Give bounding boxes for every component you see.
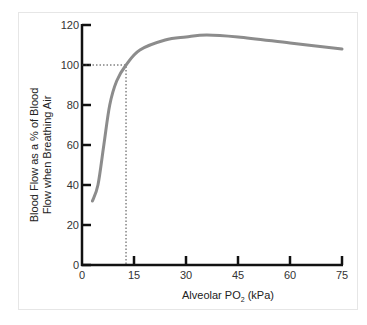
y-tick-label: 20 [67,219,79,231]
x-tick-label: 0 [79,269,85,281]
x-axis-ticks: 01530456075 [79,256,348,281]
y-axis-title-line-1: Blood Flow as a % of Blood [28,88,40,223]
y-tick-label: 80 [67,99,79,111]
x-tick-label: 45 [232,269,244,281]
x-tick-label: 15 [128,269,140,281]
y-axis-ticks: 020406080100120 [61,19,91,271]
x-axis-title-main: Alveolar PO [182,289,241,301]
x-tick-label: 75 [336,269,348,281]
x-axis-title: Alveolar PO2 (kPa) [182,289,274,303]
x-axis-title-unit: (kPa) [245,289,274,301]
reference-dotted-line [82,65,126,265]
y-axis-title-line-2: Flow when Breathing Air [41,95,53,214]
blood-flow-curve [92,35,342,201]
y-tick-label: 120 [61,19,79,31]
y-tick-label: 60 [67,139,79,151]
y-tick-label: 100 [61,59,79,71]
x-tick-label: 60 [284,269,296,281]
line-chart: 020406080100120 01530456075 Blood Flow a… [0,0,367,325]
y-tick-label: 40 [67,179,79,191]
x-tick-label: 30 [180,269,192,281]
